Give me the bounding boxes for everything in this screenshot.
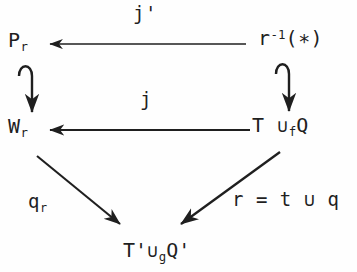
edge-label-j: j (140, 90, 152, 109)
node-r-inverse-star: r-1(∗) (258, 28, 323, 48)
edge-label-j-prime: j' (133, 4, 157, 23)
node-r-inverse-argument: (∗) (285, 26, 323, 50)
arrow-right-vertical-hooked (276, 64, 289, 111)
union-operator-icon: ∪ (147, 240, 159, 261)
union-operator-icon: ∪ (277, 115, 289, 136)
node-t-prime-union-g-q-prime: T'∪gQ' (123, 240, 190, 263)
node-t-union-f-q-base: T (252, 113, 265, 137)
commutative-diagram: Pr r-1(∗) Wr T ∪fQ T'∪gQ' j' j qr r = t … (0, 0, 357, 272)
node-p-r: Pr (8, 30, 28, 53)
arrow-left-vertical-hooked (19, 66, 32, 112)
node-p-r-subscript: r (21, 39, 28, 54)
edge-label-q-r-subscript: r (40, 201, 47, 215)
arrow-left-diagonal (37, 156, 120, 224)
edge-label-r-equals-t-union-q: r = t ∪ q (232, 190, 339, 209)
edge-label-q-r-base: q (28, 190, 40, 212)
node-r-inverse-exponent: -1 (271, 27, 286, 42)
node-w-r-base: W (8, 114, 21, 138)
node-w-r: Wr (8, 116, 28, 139)
node-t-union-f-q: T ∪fQ (252, 115, 309, 138)
edge-label-q-r: qr (28, 192, 47, 215)
node-r-inverse-base: r (258, 26, 271, 50)
node-w-r-subscript: r (21, 125, 28, 140)
node-t-prime-base: T' (123, 238, 147, 262)
node-p-r-base: P (8, 28, 21, 52)
node-q-prime-tail: Q' (166, 238, 190, 262)
node-t-union-f-q-tail: Q (296, 113, 309, 137)
